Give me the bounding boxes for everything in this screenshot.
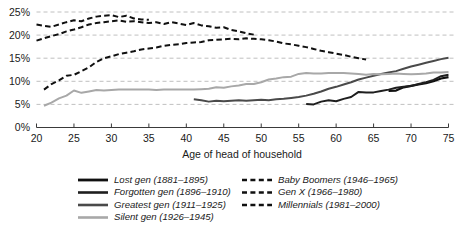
x-axis-tick-label: 55 <box>293 132 305 144</box>
x-axis-tick-label: 65 <box>368 132 380 144</box>
chart-canvas: 0%5%10%15%20%25% 20253035404550556065707… <box>0 0 462 228</box>
x-axis-title: Age of head of household <box>182 148 302 160</box>
legend-label: Forgotten gen (1896–1910) <box>114 186 231 197</box>
legend-label: Silent gen (1926–1945) <box>114 211 214 222</box>
x-axis-tick-label: 25 <box>68 132 80 144</box>
x-axis-tick-label: 60 <box>330 132 342 144</box>
x-axis-tick-label: 40 <box>180 132 192 144</box>
x-axis-tick-label: 70 <box>405 132 417 144</box>
legend-label: Gen X (1966–1980) <box>278 186 362 197</box>
x-axis-tick-label: 45 <box>218 132 230 144</box>
data-series-group <box>37 15 449 106</box>
y-axis-tick-label: 20% <box>9 29 30 41</box>
y-axis-tick-label: 25% <box>9 6 30 18</box>
line-chart-figure: 0%5%10%15%20%25% 20253035404550556065707… <box>0 0 462 228</box>
x-axis-tick-labels: 202530354045505560657075 <box>31 132 455 144</box>
legend-label: Greatest gen (1911–1925) <box>114 199 226 210</box>
x-axis-tick-label: 30 <box>106 132 118 144</box>
x-axis-tick-label: 50 <box>255 132 267 144</box>
series-line-5 <box>37 20 254 40</box>
x-axis-line <box>37 124 449 128</box>
legend-label: Millennials (1981–2000) <box>278 199 380 210</box>
y-axis-tick-label: 5% <box>15 98 30 110</box>
legend: Lost gen (1881–1895)Forgotten gen (1896–… <box>78 174 398 223</box>
x-axis-tick-label: 75 <box>443 132 455 144</box>
legend-label: Lost gen (1881–1895) <box>114 174 208 185</box>
y-axis-tick-label: 15% <box>9 52 30 64</box>
x-axis-tick-label: 20 <box>31 132 43 144</box>
y-axis-tick-labels: 0%5%10%15%20%25% <box>9 6 30 134</box>
y-axis-tick-label: 10% <box>9 75 30 87</box>
series-line-4 <box>44 38 366 89</box>
series-line-2 <box>194 58 449 102</box>
x-axis-tick-label: 35 <box>143 132 155 144</box>
legend-label: Baby Boomers (1946–1965) <box>278 174 398 185</box>
y-axis-tick-label: 0% <box>15 121 30 133</box>
